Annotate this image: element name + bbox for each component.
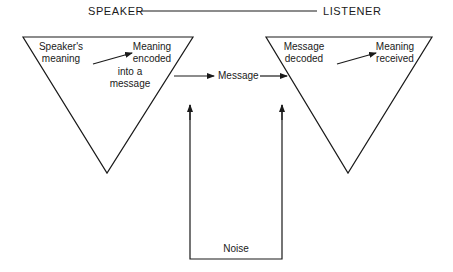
- meaning-encoded-label: Meaning encoded: [126, 41, 178, 65]
- noise-loop: [190, 105, 282, 259]
- label-line: Meaning: [126, 41, 178, 53]
- label-line: into a: [104, 66, 156, 78]
- label-line: decoded: [280, 53, 328, 65]
- into-a-message-label: into a message: [104, 66, 156, 90]
- label-line: meaning: [36, 53, 86, 65]
- label-line: encoded: [126, 53, 178, 65]
- label-line: Speaker's: [36, 41, 86, 53]
- speaker-heading: SPEAKER: [88, 5, 144, 17]
- speakers-meaning-label: Speaker's meaning: [36, 41, 86, 65]
- message-label: Message: [218, 70, 259, 82]
- label-line: message: [104, 78, 156, 90]
- label-line: received: [370, 53, 420, 65]
- label-line: Message: [280, 41, 328, 53]
- label-line: Meaning: [370, 41, 420, 53]
- listener-heading: LISTENER: [323, 5, 382, 17]
- message-decoded-label: Message decoded: [280, 41, 328, 65]
- meaning-received-label: Meaning received: [370, 41, 420, 65]
- noise-label: Noise: [190, 243, 282, 255]
